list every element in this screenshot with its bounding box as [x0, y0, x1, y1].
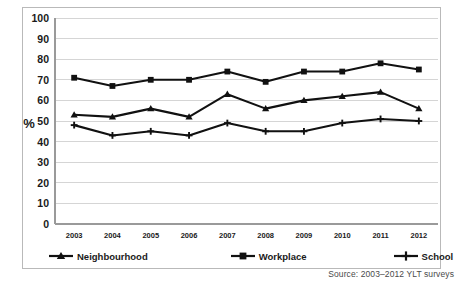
legend-label-school: School — [422, 251, 454, 262]
svg-text:2005: 2005 — [142, 231, 159, 240]
svg-text:2007: 2007 — [219, 231, 236, 240]
svg-text:2011: 2011 — [372, 231, 388, 240]
chart-screenshot: % 01020304050607080901002003200420052006… — [0, 0, 462, 284]
svg-text:2004: 2004 — [104, 231, 122, 240]
legend-item-workplace[interactable]: Workplace — [230, 250, 307, 262]
svg-text:70: 70 — [37, 74, 49, 86]
svg-text:20: 20 — [37, 177, 49, 189]
legend-item-school[interactable]: School — [393, 250, 454, 262]
svg-text:2006: 2006 — [181, 231, 198, 240]
svg-text:40: 40 — [37, 136, 49, 148]
line-chart-plot: 0102030405060708090100200320042005200620… — [0, 0, 462, 284]
svg-text:2012: 2012 — [411, 231, 428, 240]
legend-label-workplace: Workplace — [259, 251, 307, 262]
svg-text:50: 50 — [37, 115, 49, 127]
svg-text:0: 0 — [43, 218, 49, 230]
svg-text:90: 90 — [37, 33, 49, 45]
svg-text:100: 100 — [31, 12, 49, 24]
plus-marker-icon — [393, 250, 419, 262]
legend-item-neighbourhood[interactable]: Neighbourhood — [48, 250, 148, 262]
svg-text:2003: 2003 — [66, 231, 83, 240]
svg-text:80: 80 — [37, 53, 49, 65]
svg-text:2010: 2010 — [334, 231, 351, 240]
source-note: Source: 2003–2012 YLT surveys — [328, 269, 454, 279]
svg-text:10: 10 — [37, 197, 49, 209]
svg-text:60: 60 — [37, 94, 49, 106]
svg-text:30: 30 — [37, 156, 49, 168]
chart-legend: Neighbourhood Workplace School — [24, 246, 439, 266]
triangle-marker-icon — [48, 250, 74, 262]
svg-text:2009: 2009 — [296, 231, 313, 240]
svg-text:2008: 2008 — [257, 231, 274, 240]
legend-label-neighbourhood: Neighbourhood — [77, 251, 148, 262]
square-marker-icon — [230, 250, 256, 262]
